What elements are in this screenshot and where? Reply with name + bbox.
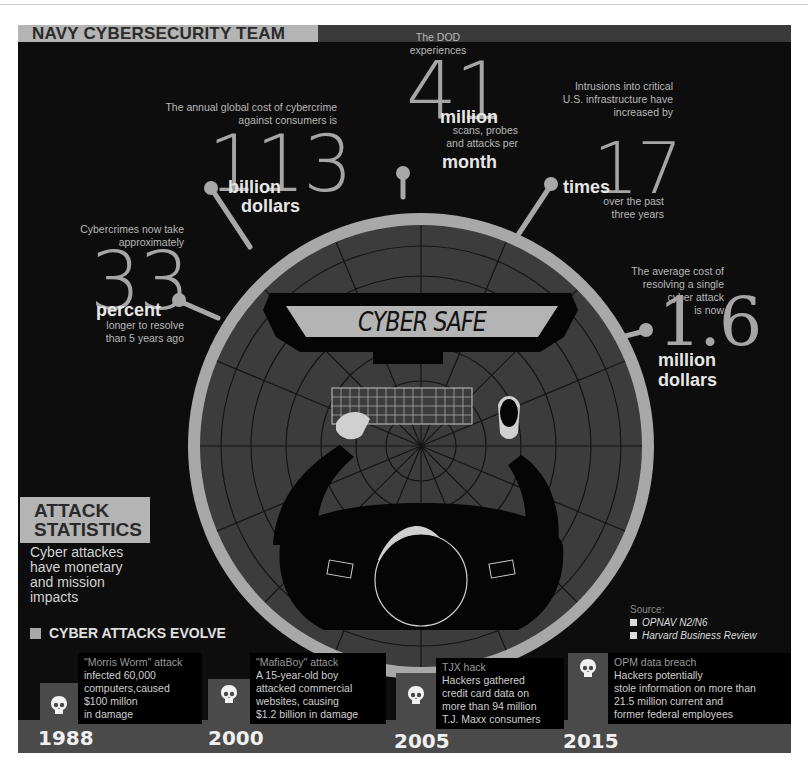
infographic: NAVY CYBERSECURITY TEAM CYBER SAFE The a…: [18, 25, 791, 753]
stat-tail: over the past three years: [558, 195, 664, 221]
attack-statistics-subtitle: Cyber attackes have monetary and mission…: [30, 545, 123, 605]
event-line: infected 60,000: [84, 669, 196, 682]
stat-number: 1.6: [658, 287, 760, 357]
event-line: $100 millon: [84, 695, 196, 708]
event-title: "Morris Worm" attack: [84, 656, 196, 669]
heading-line: STATISTICS: [34, 520, 142, 539]
subtitle-line: Cyber attackes: [30, 545, 123, 560]
event-line: 21.5 million current and: [614, 695, 785, 708]
sources-label: Source:: [630, 603, 757, 616]
stat-unit: dollars: [658, 370, 717, 390]
subtitle-line: and mission: [30, 575, 123, 590]
source-item: Harvard Business Review: [630, 629, 757, 642]
cyber-safe-sign: CYBER SAFE: [323, 307, 520, 337]
stat-unit: billion: [228, 177, 281, 197]
stat-tail-line: over the past: [558, 195, 664, 208]
timeline-heading-text: CYBER ATTACKS EVOLVE: [49, 625, 226, 641]
event-year: 2005: [394, 730, 450, 752]
stat-intro-line: The average cost of: [608, 265, 724, 278]
stat-tail-line: than 5 years ago: [58, 332, 184, 345]
stat-unit: million: [658, 350, 716, 370]
stat-intro-line: Intrusions into critical: [538, 80, 673, 93]
stat-unit: month: [442, 152, 497, 172]
event-year: 1988: [38, 727, 94, 749]
stat-tail-line: scans, probes: [414, 124, 518, 137]
bullet-square-icon: [630, 619, 637, 626]
stat-tail-line: and attacks per: [414, 137, 518, 150]
stat-tail: scans, probes and attacks per: [414, 124, 518, 150]
stat-tail-line: three years: [558, 208, 664, 221]
event-title: OPM data breach: [614, 656, 785, 669]
event-year: 2000: [208, 727, 264, 749]
page-title: NAVY CYBERSECURITY TEAM: [18, 25, 318, 42]
event-line: in damage: [84, 708, 196, 721]
event-line: Hackers gathered: [442, 674, 558, 687]
stat-intro-line: The DOD: [398, 31, 478, 44]
event-line: attacked commercial: [256, 682, 380, 695]
event-title: TJX hack: [442, 661, 558, 674]
subtitle-line: have monetary: [30, 560, 123, 575]
subtitle-line: impacts: [30, 590, 123, 605]
event-line: credit card data on: [442, 687, 558, 700]
stat-intro: Intrusions into critical U.S. infrastruc…: [538, 80, 673, 119]
bullet-square-icon: [30, 628, 41, 639]
event-description: "MafiaBoy" attack A 15-year-old boy atta…: [250, 653, 386, 724]
event-line: former federal employees: [614, 708, 785, 721]
skull-icon: [407, 685, 425, 707]
source-text: Harvard Business Review: [642, 630, 757, 641]
stat-unit: percent: [96, 300, 161, 320]
event-line: T.J. Maxx consumers: [442, 713, 558, 726]
source-item: OPNAV N2/N6: [630, 616, 757, 629]
skull-icon: [579, 658, 597, 680]
stat-tail-line: longer to resolve: [58, 319, 184, 332]
event-line: Hackers potentially: [614, 669, 785, 682]
event-line: websites, causing: [256, 695, 380, 708]
stat-intro-line: The annual global cost of cybercrime: [110, 101, 337, 114]
attack-statistics-heading: ATTACK STATISTICS: [20, 497, 150, 543]
timeline-heading: CYBER ATTACKS EVOLVE: [30, 625, 226, 641]
event-description: "Morris Worm" attack infected 60,000 com…: [78, 653, 202, 724]
stat-unit: times: [563, 177, 610, 197]
stat-tail: longer to resolve than 5 years ago: [58, 319, 184, 345]
sources: Source: OPNAV N2/N6 Harvard Business Rev…: [630, 603, 757, 642]
stat-intro-line: increased by: [538, 106, 673, 119]
event-year: 2015: [563, 730, 619, 752]
event-description: OPM data breach Hackers potentially stol…: [608, 653, 791, 724]
skull-icon: [220, 684, 238, 706]
event-line: stole information on more than: [614, 682, 785, 695]
event-description: TJX hack Hackers gathered credit card da…: [436, 658, 564, 729]
monitor-stand: [373, 352, 443, 364]
event-line: computers,caused: [84, 682, 196, 695]
bullet-square-icon: [630, 632, 637, 639]
page-top-rule: [0, 4, 808, 5]
stat-unit: dollars: [241, 196, 300, 216]
stat-intro-line: U.S. infrastructure have: [538, 93, 673, 106]
event-line: more than 94 million: [442, 700, 558, 713]
skull-icon: [50, 695, 68, 717]
event-line: A 15-year-old boy: [256, 669, 380, 682]
heading-line: ATTACK: [34, 501, 142, 520]
event-title: "MafiaBoy" attack: [256, 656, 380, 669]
source-text: OPNAV N2/N6: [642, 617, 708, 628]
event-line: $1.2 billion in damage: [256, 708, 380, 721]
